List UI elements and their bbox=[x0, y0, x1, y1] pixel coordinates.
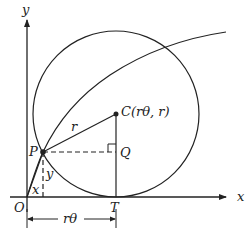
label-point-q: Q bbox=[120, 145, 131, 160]
label-seg-y: y bbox=[45, 166, 54, 181]
label-seg-x: x bbox=[32, 182, 40, 197]
label-origin: O bbox=[14, 200, 25, 215]
label-point-t: T bbox=[110, 200, 120, 215]
label-radius: r bbox=[71, 119, 78, 134]
label-arc-length: rθ bbox=[63, 211, 77, 226]
cycloid-diagram: y x O P C(rθ, r) Q T r x y rθ bbox=[0, 0, 250, 237]
point-p-dot bbox=[40, 149, 46, 155]
label-y-axis: y bbox=[21, 2, 30, 17]
label-point-p: P bbox=[28, 144, 38, 159]
right-angle-marker bbox=[108, 144, 116, 152]
label-x-axis: x bbox=[237, 189, 245, 204]
label-point-c: C(rθ, r) bbox=[121, 104, 170, 119]
point-c-dot bbox=[114, 112, 119, 117]
